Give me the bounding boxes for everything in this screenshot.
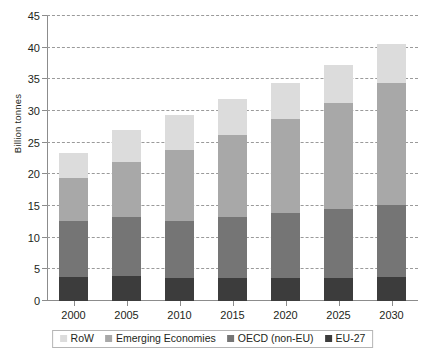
legend-swatch-icon xyxy=(325,335,332,342)
y-tick-label: 0 xyxy=(34,295,40,307)
x-tick-mark xyxy=(392,301,393,306)
legend-item[interactable]: RoW xyxy=(60,333,94,344)
x-tick-label: 2025 xyxy=(326,309,350,321)
y-tick-label: 20 xyxy=(28,168,40,180)
bar-segment-oecd-non-eu[interactable] xyxy=(324,209,354,278)
bar-segment-emerging-economies[interactable] xyxy=(112,162,142,217)
stacked-bar[interactable] xyxy=(218,16,248,301)
bar-segment-eu-27[interactable] xyxy=(112,276,142,301)
y-tick-label: 35 xyxy=(28,73,40,85)
bar-segment-eu-27[interactable] xyxy=(271,278,301,301)
bar-segment-eu-27[interactable] xyxy=(59,277,89,301)
bar-segment-emerging-economies[interactable] xyxy=(218,135,248,217)
bar-segment-emerging-economies[interactable] xyxy=(377,83,407,206)
bar-group: 2015 xyxy=(206,16,259,301)
x-tick-label: 2030 xyxy=(379,309,403,321)
legend-swatch-icon xyxy=(105,335,112,342)
y-tick-label: 5 xyxy=(34,263,40,275)
stacked-bar[interactable] xyxy=(271,16,301,301)
x-tick-label: 2010 xyxy=(167,309,191,321)
bar-group: 2030 xyxy=(365,16,418,301)
bar-segment-oecd-non-eu[interactable] xyxy=(271,213,301,278)
bar-group: 2005 xyxy=(100,16,153,301)
y-tick-label: 30 xyxy=(28,105,40,117)
x-tick-mark xyxy=(339,301,340,306)
x-tick-label: 2020 xyxy=(273,309,297,321)
bar-segment-emerging-economies[interactable] xyxy=(59,178,89,221)
bar-series-container: 2000200520102015202020252030 xyxy=(47,16,418,301)
bar-segment-oecd-non-eu[interactable] xyxy=(377,205,407,277)
x-tick-mark xyxy=(233,301,234,306)
bar-segment-emerging-economies[interactable] xyxy=(324,103,354,209)
bar-segment-eu-27[interactable] xyxy=(324,278,354,301)
legend-label: EU-27 xyxy=(336,333,366,344)
x-tick-mark xyxy=(74,301,75,306)
bar-group: 2025 xyxy=(312,16,365,301)
stacked-bar-chart: Billion tonnes 051015202530354045 200020… xyxy=(0,0,425,353)
stacked-bar[interactable] xyxy=(324,16,354,301)
stacked-bar[interactable] xyxy=(59,16,89,301)
bar-segment-row[interactable] xyxy=(218,99,248,135)
y-tick-label: 45 xyxy=(28,10,40,22)
plot-area: 051015202530354045 200020052010201520202… xyxy=(47,16,418,301)
x-tick-label: 2015 xyxy=(220,309,244,321)
bar-segment-row[interactable] xyxy=(165,115,195,150)
bar-segment-eu-27[interactable] xyxy=(218,278,248,301)
bar-segment-oecd-non-eu[interactable] xyxy=(112,217,142,275)
legend-item[interactable]: OECD (non-EU) xyxy=(227,333,314,344)
bar-segment-row[interactable] xyxy=(271,83,301,119)
legend-swatch-icon xyxy=(60,335,67,342)
x-tick-mark xyxy=(127,301,128,306)
x-tick-label: 2000 xyxy=(61,309,85,321)
bar-segment-oecd-non-eu[interactable] xyxy=(59,221,89,277)
x-tick-label: 2005 xyxy=(114,309,138,321)
y-tick-label: 40 xyxy=(28,42,40,54)
bar-segment-oecd-non-eu[interactable] xyxy=(165,221,195,277)
legend-item[interactable]: EU-27 xyxy=(325,333,366,344)
stacked-bar[interactable] xyxy=(165,16,195,301)
y-tick-label: 15 xyxy=(28,200,40,212)
stacked-bar[interactable] xyxy=(112,16,142,301)
bar-segment-row[interactable] xyxy=(59,153,89,177)
legend-label: Emerging Economies xyxy=(116,333,216,344)
bar-segment-row[interactable] xyxy=(324,65,354,102)
legend-label: RoW xyxy=(71,333,94,344)
stacked-bar[interactable] xyxy=(377,16,407,301)
bar-segment-row[interactable] xyxy=(377,44,407,83)
x-tick-mark xyxy=(180,301,181,306)
chart-legend: RoWEmerging EconomiesOECD (non-EU)EU-27 xyxy=(52,330,374,348)
bar-group: 2020 xyxy=(259,16,312,301)
x-tick-mark xyxy=(286,301,287,306)
bar-group: 2010 xyxy=(153,16,206,301)
y-axis-title: Billion tonnes xyxy=(12,59,23,189)
bar-segment-emerging-economies[interactable] xyxy=(165,150,195,221)
bar-segment-eu-27[interactable] xyxy=(165,278,195,301)
legend-swatch-icon xyxy=(227,335,234,342)
bar-segment-eu-27[interactable] xyxy=(377,277,407,301)
bar-segment-row[interactable] xyxy=(112,130,142,162)
bar-group: 2000 xyxy=(47,16,100,301)
bar-segment-oecd-non-eu[interactable] xyxy=(218,217,248,277)
legend-item[interactable]: Emerging Economies xyxy=(105,333,216,344)
legend-label: OECD (non-EU) xyxy=(238,333,314,344)
y-tick-label: 25 xyxy=(28,137,40,149)
y-tick-label: 10 xyxy=(28,232,40,244)
bar-segment-emerging-economies[interactable] xyxy=(271,119,301,213)
